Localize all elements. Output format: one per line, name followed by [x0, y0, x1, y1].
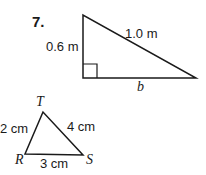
right-triangle — [83, 15, 196, 78]
vertex-s-label: S — [86, 153, 93, 167]
side-tr-label: 2 cm — [0, 122, 28, 135]
right-angle-marker — [83, 64, 97, 78]
side-ts-label: 4 cm — [67, 120, 95, 133]
side-rs-label: 3 cm — [40, 157, 68, 170]
vertex-t-label: T — [36, 95, 44, 109]
hypotenuse-label: 1.0 m — [125, 27, 158, 40]
diagram-figures — [0, 0, 206, 175]
leg-label: 0.6 m — [46, 40, 79, 53]
vertex-r-label: R — [15, 153, 24, 167]
base-label: b — [137, 80, 144, 94]
